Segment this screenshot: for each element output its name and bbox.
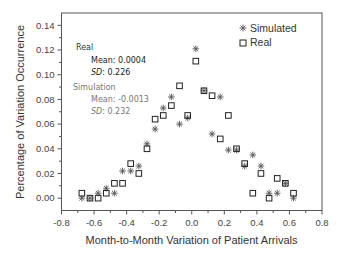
- series-real: [79, 58, 296, 201]
- square-marker: [120, 181, 126, 187]
- asterisk-marker: [111, 190, 118, 197]
- x-tick-label: 0.6: [283, 217, 296, 228]
- y-tick-label: 0.00: [36, 192, 55, 203]
- y-tick-label: 0.04: [36, 143, 55, 154]
- asterisk-marker: [193, 45, 200, 52]
- square-marker: [152, 116, 158, 122]
- y-tick-label: 0.02: [36, 168, 55, 179]
- scatter-chart: -0.8-0.6-0.4-0.20.00.20.40.60.8 0.000.02…: [0, 0, 343, 256]
- sim-mean: Mean: -0.0013: [91, 95, 149, 104]
- x-tick-label: 0.4: [250, 217, 263, 228]
- square-marker: [193, 58, 199, 64]
- square-marker: [258, 171, 264, 177]
- sim-sd: SD: 0.232: [91, 107, 130, 116]
- asterisk-marker: [160, 105, 167, 112]
- asterisk-marker: [274, 190, 281, 197]
- asterisk-marker: [136, 163, 143, 170]
- y-tick-label: 0.12: [36, 44, 55, 55]
- asterisk-marker: [127, 168, 134, 175]
- real-mean: Mean: 0.0004: [91, 56, 146, 65]
- square-marker: [169, 103, 175, 109]
- asterisk-marker: [152, 126, 159, 133]
- x-tick-label: -0.6: [86, 217, 102, 228]
- square-marker: [160, 113, 166, 119]
- asterisk-marker: [225, 147, 232, 154]
- y-tick-label: 0.10: [36, 69, 55, 80]
- square-marker: [217, 136, 223, 142]
- square-marker: [112, 181, 118, 187]
- x-axis: -0.8-0.6-0.4-0.20.00.20.40.60.8: [53, 211, 328, 228]
- x-tick-label: 0.2: [218, 217, 231, 228]
- x-tick-label: -0.4: [118, 217, 134, 228]
- sim-stats-title: Simulation: [73, 83, 116, 92]
- x-tick-label: -0.2: [151, 217, 167, 228]
- y-tick-label: 0.08: [36, 94, 55, 105]
- legend-label-simulated: Simulated: [250, 22, 297, 34]
- asterisk-marker: [258, 163, 265, 170]
- asterisk-marker: [217, 94, 224, 101]
- asterisk-marker: [209, 131, 216, 138]
- y-axis-label: Percentage of Variation Occurrence: [14, 25, 26, 199]
- stats-annotation: Real Mean: 0.0004 SD: 0.226 Simulation M…: [73, 43, 149, 116]
- x-tick-label: 0.0: [185, 217, 198, 228]
- square-marker: [136, 171, 142, 177]
- asterisk-marker: [176, 121, 183, 128]
- legend-label-real: Real: [250, 36, 272, 48]
- square-marker: [250, 190, 256, 196]
- square-marker: [177, 83, 183, 89]
- y-tick-label: 0.14: [36, 20, 55, 31]
- asterisk-marker: [119, 168, 126, 175]
- square-marker: [274, 176, 280, 182]
- real-sd: SD: 0.226: [91, 68, 130, 77]
- y-tick-label: 0.06: [36, 118, 55, 129]
- x-tick-label: 0.8: [315, 217, 328, 228]
- y-axis: 0.000.020.040.060.080.100.120.14: [36, 20, 62, 204]
- square-marker: [226, 113, 232, 119]
- x-axis-label: Month-to-Month Variation of Patient Arri…: [86, 234, 298, 246]
- legend-square-icon: [240, 40, 246, 46]
- asterisk-marker: [250, 152, 257, 159]
- legend: Simulated Real: [240, 22, 297, 48]
- square-marker: [209, 93, 215, 99]
- x-tick-label: -0.8: [53, 217, 69, 228]
- legend-asterisk-icon: [240, 25, 247, 32]
- real-stats-title: Real: [76, 43, 93, 52]
- asterisk-marker: [168, 94, 175, 101]
- square-marker: [128, 161, 134, 167]
